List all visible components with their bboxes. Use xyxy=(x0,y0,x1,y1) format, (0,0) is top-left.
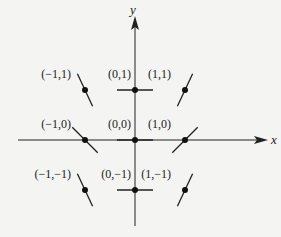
point-label: (−1,0) xyxy=(41,117,71,131)
slope-field-diagram: x y (−1,1)(0,1)(1,1)(−1,0)(0,0)(1,0)(−1,… xyxy=(0,0,281,237)
grid-point xyxy=(182,87,188,93)
grid-point xyxy=(82,87,88,93)
grid-point xyxy=(82,187,88,193)
y-axis-label: y xyxy=(128,2,136,17)
point-label: (0,−1) xyxy=(101,167,131,181)
grid-point xyxy=(82,137,88,143)
point-label: (1,−1) xyxy=(141,167,171,181)
point-label: (1,1) xyxy=(148,67,171,81)
grid-point xyxy=(132,137,138,143)
x-axis-label: x xyxy=(270,132,277,147)
point-label: (1,0) xyxy=(148,117,171,131)
point-label: (−1,1) xyxy=(41,67,71,81)
grid-point xyxy=(182,187,188,193)
point-label: (0,1) xyxy=(108,67,131,81)
point-label: (−1,−1) xyxy=(34,167,71,181)
grid-point xyxy=(132,187,138,193)
grid-point xyxy=(182,137,188,143)
point-label: (0,0) xyxy=(108,117,131,131)
grid-point xyxy=(132,87,138,93)
